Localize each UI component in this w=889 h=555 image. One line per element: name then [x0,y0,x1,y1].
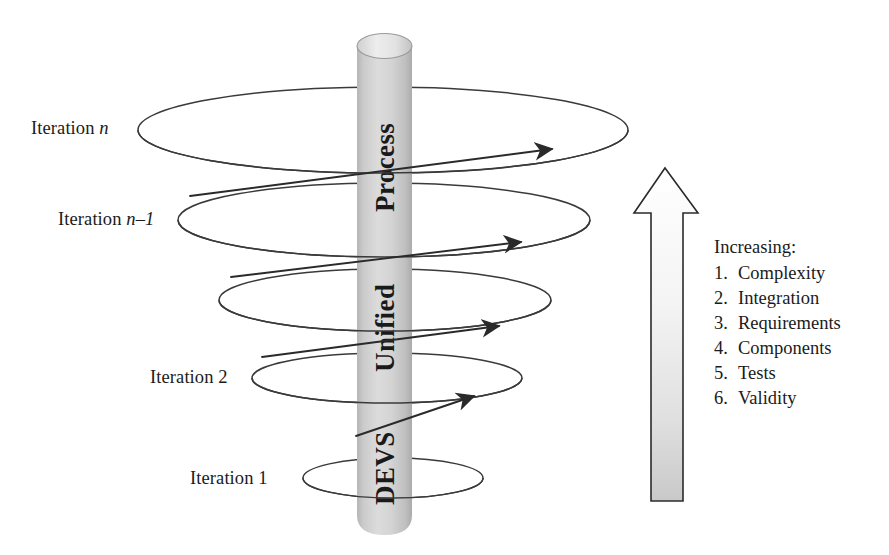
iteration-label-2-prefix: Iteration [150,367,218,387]
legend-item-number: 6. [714,389,738,408]
iteration-label-n-minus-1-prefix: Iteration [58,209,126,229]
legend-item-label: Complexity [738,264,879,283]
iteration-label-n-suffix: n [99,118,108,138]
legend-item-label: Requirements [738,314,879,333]
iteration-label-n: Iteration n [31,118,109,139]
legend-item-number: 3. [714,314,738,333]
iteration-label-n-minus-1: Iteration n–1 [58,209,154,230]
legend-item-number: 4. [714,339,738,358]
iteration-label-n-prefix: Iteration [31,118,99,138]
legend-item-label: Validity [738,389,879,408]
iteration-label-1: Iteration 1 [190,468,268,489]
legend-item-validity: 6. Validity [714,389,879,408]
increasing-arrow-icon [634,168,698,501]
iteration-label-n-minus-1-suffix: n–1 [126,209,154,229]
legend-item-label: Tests [738,364,879,383]
legend-item-label: Components [738,339,879,358]
legend-item-tests: 5. Tests [714,364,879,383]
legend-item-number: 2. [714,289,738,308]
iteration-label-1-prefix: Iteration [190,468,258,488]
iteration-label-2: Iteration 2 [150,367,228,388]
cylinder-label-group: DEVS Unified Process [370,123,400,505]
cylinder-label-unified: Unified [370,284,400,372]
legend-item-complexity: 1. Complexity [714,264,879,283]
legend-title: Increasing: [714,238,879,257]
iteration-label-1-suffix: 1 [258,468,267,488]
cylinder-label-process: Process [370,123,400,212]
iteration-label-2-suffix: 2 [218,367,227,387]
cylinder-label-devs: DEVS [370,431,400,505]
legend-item-requirements: 3. Requirements [714,314,879,333]
legend-item-label: Integration [738,289,879,308]
legend-item-number: 5. [714,364,738,383]
cylinder-top-cap [357,34,412,59]
increasing-legend: Increasing: 1. Complexity 2. Integration… [714,238,879,414]
legend-list: 1. Complexity 2. Integration 3. Requirem… [714,264,879,408]
legend-item-integration: 2. Integration [714,289,879,308]
figure-canvas: DEVS Unified Process Iteration n Iterati… [0,0,889,555]
legend-item-components: 4. Components [714,339,879,358]
legend-item-number: 1. [714,264,738,283]
